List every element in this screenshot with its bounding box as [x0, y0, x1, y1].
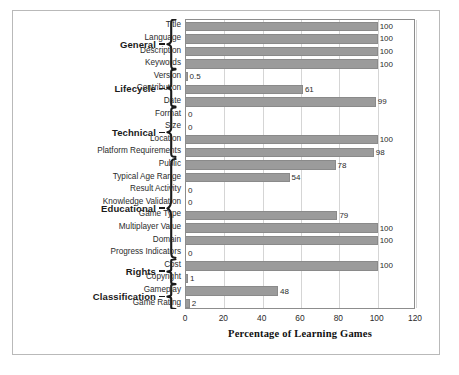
- bar-value-label: 100: [380, 47, 393, 56]
- category-label: Platform Requirements: [97, 146, 181, 156]
- bar: [186, 236, 378, 245]
- category-label: Domain: [153, 235, 181, 245]
- category-label: Description: [140, 46, 181, 56]
- category-label: Public: [159, 159, 181, 169]
- x-tick-label: 20: [219, 313, 228, 323]
- x-tick-label: 120: [408, 313, 422, 323]
- category-label: Location: [150, 134, 181, 144]
- grid-line: [378, 20, 379, 308]
- bar-value-label: 2: [192, 299, 196, 308]
- bar: [186, 173, 290, 182]
- bar-value-label: 100: [380, 261, 393, 270]
- bar-value-label: 99: [378, 97, 387, 106]
- bar: [186, 47, 378, 56]
- bar-value-label: 54: [292, 173, 301, 182]
- bar: [186, 261, 378, 270]
- plot-axes: 1001001001000.56199001009878540079100100…: [185, 19, 415, 309]
- x-tick-label: 60: [295, 313, 304, 323]
- bar: [186, 135, 378, 144]
- category-label: Version: [154, 71, 181, 81]
- bar: [186, 286, 278, 295]
- category-label: Format: [155, 109, 181, 119]
- bar: [186, 85, 303, 94]
- bar-value-label: 79: [339, 211, 348, 220]
- bar: [186, 22, 378, 31]
- bar-value-label: 98: [376, 148, 385, 157]
- bar-value-label: 0: [188, 198, 192, 207]
- bar: [186, 148, 374, 157]
- x-tick-label: 100: [370, 313, 384, 323]
- category-label: Keywords: [145, 58, 181, 68]
- bar-value-label: 100: [380, 135, 393, 144]
- category-label: Title: [166, 20, 181, 30]
- bar-value-label: 100: [380, 22, 393, 31]
- bar: [186, 223, 378, 232]
- bar-value-label: 100: [380, 60, 393, 69]
- category-label: Progress Indicators: [110, 247, 181, 257]
- bar-value-label: 0: [188, 186, 192, 195]
- bar-value-label: 0: [188, 249, 192, 258]
- bar: [186, 97, 376, 106]
- bar: [186, 211, 337, 220]
- category-label: Copyright: [146, 272, 181, 282]
- x-axis-title: Percentage of Learning Games: [185, 328, 415, 339]
- bar: [186, 72, 188, 81]
- bar: [186, 160, 336, 169]
- category-label: Result Activity: [130, 184, 181, 194]
- x-tick-label: 40: [257, 313, 266, 323]
- bar-value-label: 61: [305, 85, 314, 94]
- bar-value-label: 100: [380, 236, 393, 245]
- category-label: Typical Age Range: [113, 172, 181, 182]
- bar-value-label: 78: [338, 161, 347, 170]
- bar-value-label: 1: [190, 274, 194, 283]
- category-axis-labels: TitleLanguageDescriptionKeywordsVersionC…: [101, 19, 181, 309]
- grid-line: [416, 20, 417, 308]
- category-label: Multiplayer Value: [119, 222, 181, 232]
- bar-value-label: 48: [280, 287, 289, 296]
- category-label: Date: [164, 96, 181, 106]
- bar: [186, 299, 190, 308]
- category-label: Game Rating: [133, 298, 181, 308]
- bar: [186, 59, 378, 68]
- x-tick-label: 0: [183, 313, 188, 323]
- chart-plot-region: TitleLanguageDescriptionKeywordsVersionC…: [185, 19, 429, 331]
- category-label: Cost: [164, 260, 181, 270]
- category-label: Gameplay: [144, 285, 181, 295]
- bar-value-label: 0: [188, 110, 192, 119]
- category-label: Game Type: [139, 209, 181, 219]
- category-label: Language: [145, 33, 181, 43]
- bar-value-label: 100: [380, 224, 393, 233]
- category-label: Size: [165, 121, 181, 131]
- chart-figure: GeneralLifecycleTechnicalEducationalRigh…: [12, 10, 440, 355]
- category-label: Contribution: [137, 83, 181, 93]
- bar-value-label: 0.5: [190, 72, 201, 81]
- bar: [186, 34, 378, 43]
- bar-value-label: 100: [380, 34, 393, 43]
- category-label: Knowledge Validation: [103, 197, 181, 207]
- x-tick-label: 80: [334, 313, 343, 323]
- bar-value-label: 0: [188, 123, 192, 132]
- bar: [186, 274, 188, 283]
